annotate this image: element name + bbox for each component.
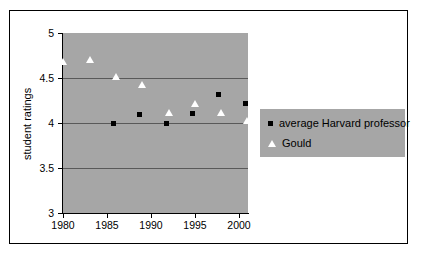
gridline-4 — [63, 123, 248, 124]
x-tick-mark-2000 — [239, 213, 240, 218]
x-tick-label-1990: 1990 — [131, 220, 171, 231]
x-tick-mark-1980 — [63, 213, 64, 218]
scatter-chart: 5 4.5 4 3.5 3 1980 1985 1990 1995 2000 s… — [0, 0, 426, 261]
data-point-gould-1998 — [217, 109, 225, 116]
gridline-4.5 — [63, 78, 248, 79]
data-point-harvard-1986 — [111, 121, 116, 126]
legend-triangle-icon — [268, 140, 276, 147]
y-tick-mark-4.5 — [58, 78, 63, 79]
x-axis-line — [62, 213, 249, 214]
x-tick-label-1995: 1995 — [175, 220, 215, 231]
x-tick-label-1980: 1980 — [43, 220, 83, 231]
legend-item-gould: Gould — [268, 137, 311, 149]
gridline-3.5 — [63, 168, 248, 169]
y-axis-title: student ratings — [21, 88, 33, 160]
legend-label-gould: Gould — [282, 137, 311, 149]
data-point-gould-1989 — [138, 81, 146, 88]
data-point-gould-1983 — [86, 56, 94, 63]
data-point-gould-1980 — [59, 58, 67, 65]
data-point-gould-1992 — [165, 109, 173, 116]
data-point-gould-2001 — [243, 117, 251, 124]
data-point-gould-1995 — [191, 100, 199, 107]
x-tick-label-2000: 2000 — [219, 220, 259, 231]
x-tick-label-1985: 1985 — [87, 220, 127, 231]
data-point-harvard-1989 — [137, 112, 142, 117]
data-point-harvard-1995 — [190, 111, 195, 116]
x-tick-mark-1990 — [151, 213, 152, 218]
x-tick-mark-1995 — [195, 213, 196, 218]
legend-square-icon — [268, 121, 273, 126]
y-tick-mark-5 — [58, 33, 63, 34]
data-point-gould-1986 — [112, 73, 120, 80]
data-point-harvard-1992 — [164, 121, 169, 126]
y-tick-label-5: 5 — [24, 28, 54, 38]
x-tick-mark-1985 — [107, 213, 108, 218]
y-tick-label-3.5: 3.5 — [24, 163, 54, 173]
y-tick-label-3: 3 — [24, 208, 54, 218]
data-point-harvard-2001 — [243, 101, 248, 106]
y-tick-mark-3.5 — [58, 168, 63, 169]
legend-item-harvard: average Harvard professor — [268, 117, 410, 129]
legend-label-harvard: average Harvard professor — [279, 117, 410, 129]
data-point-harvard-1998 — [216, 92, 221, 97]
y-tick-label-4.5: 4.5 — [24, 73, 54, 83]
chart-legend: average Harvard professor Gould — [260, 109, 405, 157]
y-tick-mark-4 — [58, 123, 63, 124]
